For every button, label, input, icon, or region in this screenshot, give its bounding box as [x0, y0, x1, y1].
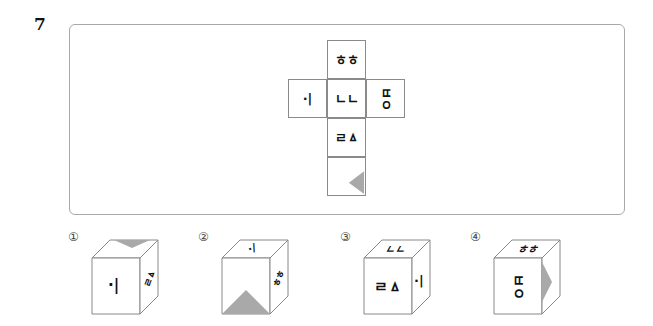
net-face-right-glyph: ㅂㅇ [379, 87, 392, 111]
cube-4-front: ㅂㅇ [512, 274, 526, 300]
net-face-left: ·| [288, 79, 327, 118]
question-number: 7 [34, 14, 46, 34]
option-2-number: ② [198, 230, 209, 244]
cube-1-front: ·| [108, 278, 119, 293]
net-face-below-center: ㄹㅿ [327, 118, 366, 157]
option-4[interactable]: ④ ㅎㅎ ㅂㅇ [470, 228, 590, 320]
cube-1: ·| ㄹㅿ [90, 236, 160, 316]
net-face-top-glyph: ㅎㅎ [335, 53, 359, 66]
option-1[interactable]: ① ·| ㄹㅿ [68, 228, 188, 320]
cube-4: ㅎㅎ ㅂㅇ [492, 236, 562, 316]
option-3[interactable]: ③ ㄴㄴ ㄹㅿ ·| [340, 228, 460, 320]
cube-3-right: ·| [414, 274, 424, 287]
net-face-left-glyph: ·| [303, 92, 313, 105]
option-2[interactable]: ② ·/ ㅎㅎ [198, 228, 318, 320]
net-face-below-glyph: ㄹㅿ [335, 131, 359, 144]
option-3-number: ③ [340, 230, 351, 244]
cube-2: ·/ ㅎㅎ [220, 236, 290, 316]
cube-3-front: ㄹㅿ [374, 280, 402, 295]
net-face-bottom [327, 157, 366, 196]
net-face-right: ㅂㅇ [366, 79, 405, 118]
net-face-center: ㄴㄴ [327, 79, 366, 118]
gray-triangle-icon [328, 157, 365, 196]
option-1-number: ① [68, 230, 79, 244]
cube-3: ㄴㄴ ㄹㅿ ·| [362, 236, 432, 316]
net-face-top: ㅎㅎ [327, 40, 366, 79]
option-4-number: ④ [470, 230, 481, 244]
net-face-center-glyph: ㄴㄴ [335, 92, 359, 105]
